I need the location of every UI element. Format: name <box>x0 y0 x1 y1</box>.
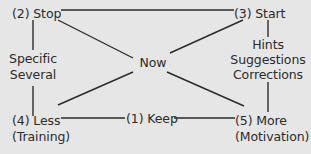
edge-stop-now <box>58 20 133 58</box>
node-more-sub: (Motivation) <box>235 129 309 144</box>
edge-label-hints: Hints <box>252 37 284 52</box>
node-now: Now <box>140 55 167 70</box>
node-start: (3) Start <box>234 6 285 21</box>
node-less: (4) Less <box>12 113 60 128</box>
edge-label-several: Several <box>10 67 56 82</box>
node-more: (5) More <box>235 113 287 128</box>
node-keep: (1) Keep <box>126 111 178 126</box>
edge-start-now <box>170 20 243 53</box>
edge-label-suggestions: Suggestions <box>230 52 305 67</box>
node-stop: (2) Stop <box>12 6 61 21</box>
edge-label-specific: Specific <box>9 51 57 66</box>
node-less-sub: (Training) <box>12 129 70 144</box>
edge-label-corrections: Corrections <box>233 67 303 82</box>
edge-now-less <box>58 72 133 105</box>
